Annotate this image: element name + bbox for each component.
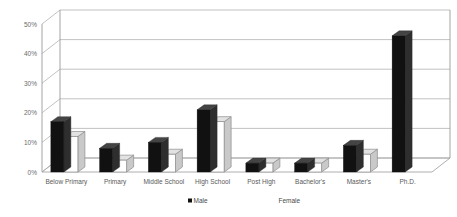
legend-swatch-male (188, 199, 192, 203)
y-axis-tick-label: 0% (28, 169, 38, 176)
y-axis-tick-label: 50% (24, 21, 37, 28)
x-axis-tick-label-ph-d: Ph.D. (399, 178, 415, 185)
bar-male-ph-d (392, 31, 412, 172)
bar-front-face (100, 148, 113, 172)
bar-front-face (392, 36, 405, 172)
bar-side-face (405, 31, 412, 172)
bar-side-face (356, 140, 363, 172)
y-gridline-group (42, 69, 450, 83)
gridline (42, 69, 450, 83)
bar-male-high-school (197, 105, 217, 172)
bar-male-primary (100, 143, 120, 172)
bar-front-face (343, 145, 356, 172)
bar-side-face (210, 105, 217, 172)
bar-side-face (78, 131, 85, 172)
gridline (42, 40, 450, 54)
x-axis-tick-label-post-high: Post High (247, 178, 276, 186)
bar-male-middle-school (148, 137, 168, 172)
legend-label-male: Male (194, 197, 208, 204)
bar-side-face (64, 117, 71, 172)
y-axis-tick-label: 20% (24, 109, 37, 116)
bar-front-face (51, 122, 64, 172)
y-axis-tick-label: 40% (24, 50, 37, 57)
bar-male-master-s (343, 140, 363, 172)
gridline (42, 99, 450, 113)
chart-canvas: 0%10%20%30%40%50%Below PrimaryPrimaryMid… (0, 0, 457, 217)
chart-back-wall (42, 10, 450, 24)
y-gridline-group (42, 99, 450, 113)
x-axis-tick-label-primary: Primary (104, 178, 127, 186)
y-axis-tick-label: 10% (24, 139, 37, 146)
legend-swatch-female (273, 199, 277, 203)
y-axis-tick-label: 30% (24, 80, 37, 87)
bar-chart: 0%10%20%30%40%50%Below PrimaryPrimaryMid… (0, 0, 457, 217)
x-axis-tick-label-bachelor-s: Bachelor's (295, 178, 326, 185)
x-axis-tick-label-below-primary: Below Primary (45, 178, 88, 186)
bar-male-below-primary (51, 117, 71, 172)
x-axis-tick-label-middle-school: Middle School (143, 178, 184, 185)
legend-label-female: Female (279, 197, 301, 204)
y-gridline-group (42, 128, 450, 142)
y-gridline-group (42, 40, 450, 54)
gridline (42, 128, 450, 142)
bar-side-face (224, 117, 231, 172)
bar-front-face (246, 163, 259, 172)
x-axis-tick-label-high-school: High School (195, 178, 231, 186)
bar-front-face (295, 163, 308, 172)
bar-side-face (161, 137, 168, 172)
bar-front-face (148, 142, 161, 172)
bar-front-face (197, 110, 210, 172)
x-axis-tick-label-master-s: Master's (347, 178, 372, 185)
